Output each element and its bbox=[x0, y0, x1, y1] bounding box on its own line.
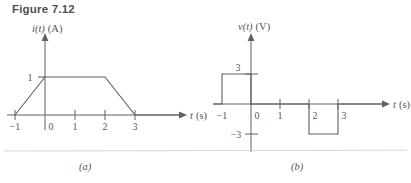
panel-a-x-axis-label-var: t bbox=[190, 110, 194, 121]
panel-b-ytick-label--3: −3 bbox=[231, 129, 242, 140]
chart-panel-a: i(t)(A) t(s) 1 −1 0 1 2 3 bbox=[0, 22, 210, 142]
divider-line bbox=[4, 150, 407, 151]
panel-a-x-axis-label-unit: (s) bbox=[196, 110, 208, 122]
panel-b-xtick-label-3: 3 bbox=[342, 110, 347, 121]
panel-a-x-axis-label: t(s) bbox=[190, 110, 208, 122]
figure-container: Figure 7.12 i(t)(A) t(s) 1 −1 0 1 2 3 bbox=[0, 0, 411, 183]
panel-b-y-axis-label-var: v(t) bbox=[238, 21, 253, 33]
panel-a-y-axis-arrowhead bbox=[42, 33, 49, 41]
panel-b-xtick-label--1: −1 bbox=[217, 110, 228, 121]
panel-b-xtick-label-0: 0 bbox=[255, 110, 260, 121]
panel-b-x-axis-label-var: t bbox=[393, 99, 397, 110]
figure-title: Figure 7.12 bbox=[12, 3, 75, 15]
panel-a-xtick-label-2: 2 bbox=[103, 121, 108, 132]
panel-b-ytick-label-3: 3 bbox=[236, 62, 241, 73]
panel-b-x-axis-label: t(s) bbox=[393, 99, 411, 111]
panel-b-y-axis-label: v(t)(V) bbox=[238, 21, 271, 33]
figure-divider-rule bbox=[0, 148, 411, 154]
panel-b-y-axis-label-unit: (V) bbox=[256, 21, 271, 33]
panel-b-y-axis-arrowhead bbox=[248, 33, 255, 41]
panel-a-y-axis-label: i(t)(A) bbox=[32, 23, 63, 35]
panel-b-xtick-label-1: 1 bbox=[278, 110, 283, 121]
panel-a-waveform bbox=[15, 77, 181, 115]
panel-a-xtick-label-0: 0 bbox=[49, 121, 54, 132]
panel-b-caption: (b) bbox=[291, 161, 303, 172]
panel-a-y-axis-label-unit: (A) bbox=[48, 23, 63, 35]
panel-a-ytick-label-1: 1 bbox=[28, 72, 33, 83]
panel-a-xtick-label-3: 3 bbox=[133, 121, 138, 132]
panel-a-y-axis-label-var: i(t) bbox=[32, 23, 45, 35]
panel-a-caption: (a) bbox=[79, 161, 91, 172]
panel-b-xtick-label-2: 2 bbox=[313, 110, 318, 121]
panel-a-xtick-label-1: 1 bbox=[73, 121, 78, 132]
panel-b-x-axis-label-unit: (s) bbox=[399, 99, 411, 111]
panel-a-xtick-label--1: −1 bbox=[10, 121, 21, 132]
chart-panel-b: v(t)(V) t(s) 3 −3 −1 0 1 2 3 bbox=[211, 20, 411, 155]
